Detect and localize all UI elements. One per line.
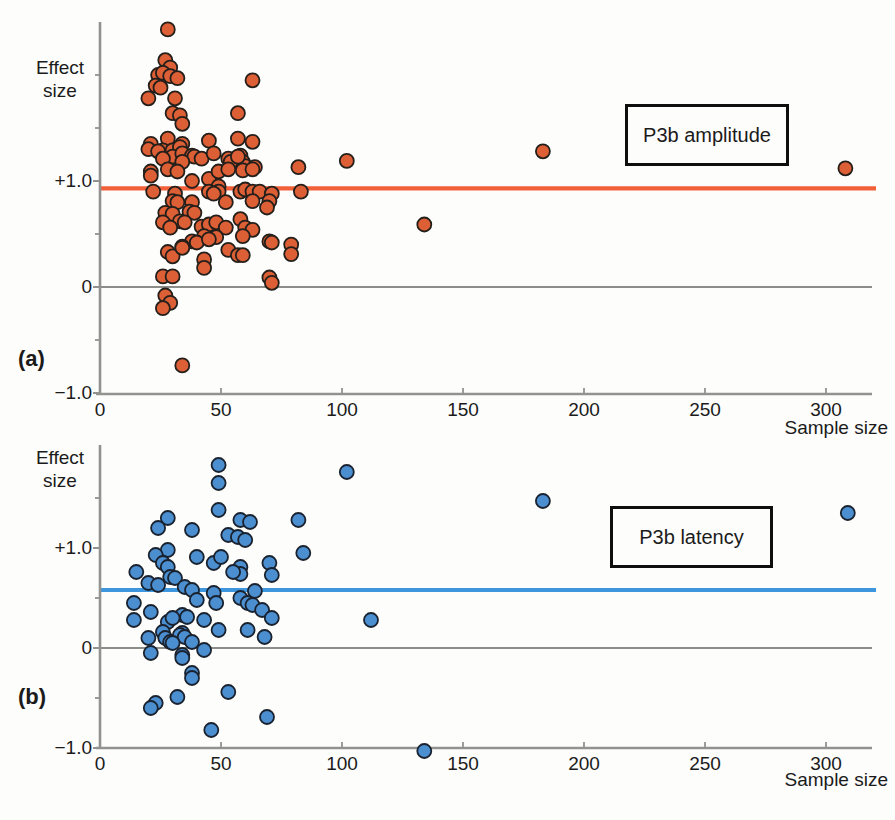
data-point [212, 476, 226, 490]
data-point [197, 261, 211, 275]
data-point [260, 710, 274, 724]
data-point [129, 565, 143, 579]
data-point [265, 276, 279, 290]
data-point [154, 81, 168, 95]
data-point [291, 160, 305, 174]
x-tick-label: 0 [78, 399, 122, 421]
x-tick-label: 300 [804, 399, 848, 421]
data-point [161, 22, 175, 36]
data-point [340, 465, 354, 479]
data-point [221, 162, 235, 176]
data-point [163, 221, 177, 235]
panel-letter-a: (a) [18, 346, 45, 372]
x-tick-label: 150 [441, 399, 485, 421]
data-point [838, 161, 852, 175]
data-point [265, 611, 279, 625]
data-point [231, 106, 245, 120]
data-point [291, 513, 305, 527]
data-point [417, 218, 431, 232]
data-point [151, 578, 165, 592]
data-point [340, 154, 354, 168]
data-point [168, 91, 182, 105]
data-point [170, 71, 184, 85]
x-tick-label: 100 [320, 399, 364, 421]
data-point [185, 523, 199, 537]
data-point [127, 596, 141, 610]
data-point [144, 605, 158, 619]
data-point [170, 165, 184, 179]
data-point [238, 533, 252, 547]
data-point [231, 150, 245, 164]
panel-letter-b: (b) [18, 684, 46, 710]
data-point [209, 596, 223, 610]
y-tick-label: 0 [30, 276, 92, 298]
data-point [236, 248, 250, 262]
data-point [219, 195, 233, 209]
data-point [144, 701, 158, 715]
data-point [841, 506, 855, 520]
data-point [246, 135, 260, 149]
x-tick-label: 250 [683, 399, 727, 421]
data-point [144, 646, 158, 660]
data-point [175, 117, 189, 131]
data-point [166, 636, 180, 650]
data-point [175, 358, 189, 372]
data-point [141, 91, 155, 105]
figure: Effect size (a) P3b amplitude Sample siz… [0, 0, 895, 820]
data-point [185, 671, 199, 685]
legend-label-a: P3b amplitude [643, 124, 771, 147]
data-point [294, 185, 308, 199]
data-point [127, 613, 141, 627]
x-tick-label: 200 [562, 753, 606, 775]
data-point [180, 610, 194, 624]
data-point [170, 690, 184, 704]
legend-box-a: P3b amplitude [625, 104, 789, 166]
data-point [246, 162, 260, 176]
x-tick-label: 100 [320, 753, 364, 775]
data-point [231, 132, 245, 146]
data-point [204, 723, 218, 737]
data-point [536, 144, 550, 158]
data-point [202, 232, 216, 246]
y-tick-label: 0 [30, 637, 92, 659]
data-point [296, 546, 310, 560]
data-point [144, 169, 158, 183]
data-point [241, 623, 255, 637]
x-tick-label: 150 [441, 753, 485, 775]
x-tick-label: 0 [78, 753, 122, 775]
data-point [364, 613, 378, 627]
data-point [207, 187, 221, 201]
data-point [185, 174, 199, 188]
data-point [197, 613, 211, 627]
x-tick-label: 250 [683, 753, 727, 775]
data-point [212, 503, 226, 517]
data-point [265, 568, 279, 582]
legend-box-b: P3b latency [610, 506, 773, 568]
data-point [151, 521, 165, 535]
data-point [214, 550, 228, 564]
data-point [226, 565, 240, 579]
data-point [258, 630, 272, 644]
data-point [166, 611, 180, 625]
data-point [246, 73, 260, 87]
y-axis-label-b: Effect size [26, 446, 94, 492]
data-point [166, 269, 180, 283]
data-point [284, 247, 298, 261]
data-point [246, 194, 260, 208]
data-point [175, 651, 189, 665]
data-point [156, 301, 170, 315]
data-point [141, 631, 155, 645]
legend-label-b: P3b latency [639, 526, 744, 549]
x-tick-label: 50 [199, 753, 243, 775]
data-point [190, 550, 204, 564]
data-point [536, 494, 550, 508]
data-point [178, 215, 192, 229]
data-point [190, 593, 204, 607]
data-point [212, 458, 226, 472]
y-axis-label-a: Effect size [26, 56, 94, 102]
data-point [146, 185, 160, 199]
y-tick-label: +1.0 [30, 170, 92, 192]
y-tick-label: +1.0 [30, 537, 92, 559]
x-tick-label: 300 [804, 753, 848, 775]
x-tick-label: 50 [199, 399, 243, 421]
